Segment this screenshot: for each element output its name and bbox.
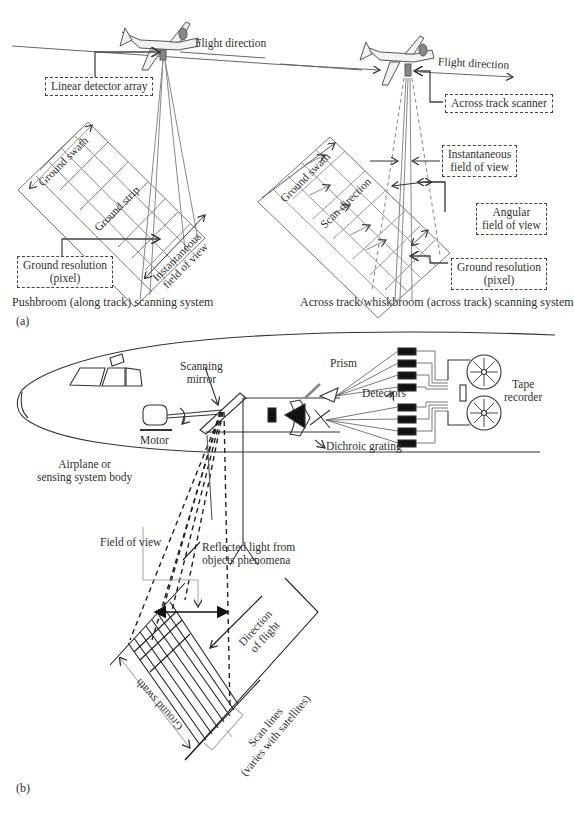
tape-recorder-line2: recorder xyxy=(504,391,542,404)
part-a-label: (a) xyxy=(16,315,29,328)
pushbroom-ground-resolution-line1: Ground resolution xyxy=(23,259,107,272)
whiskbroom-ifov-line2: field of view xyxy=(448,161,511,174)
angular-field-of-view-label: Angular field of view xyxy=(476,203,547,235)
whiskbroom-ifov-label: Instantaneous field of view xyxy=(442,145,517,177)
airplane-body-line2: sensing system body xyxy=(37,471,132,484)
tape-recorder-line1: Tape xyxy=(504,378,542,391)
prism-label: Prism xyxy=(330,357,357,370)
tape-recorder-icon xyxy=(448,355,501,430)
reflected-light-line2: objects phenomena xyxy=(202,554,295,567)
part-b-label: (b) xyxy=(16,782,30,795)
linear-detector-array-label: Linear detector array xyxy=(45,77,153,96)
detectors-label: Detectors xyxy=(362,387,406,400)
whiskbroom-ground-resolution-line1: Ground resolution xyxy=(457,261,541,274)
whiskbroom-ground-resolution-label: Ground resolution (pixel) xyxy=(451,258,547,290)
pushbroom-caption: Pushbroom (along track) scanning system xyxy=(12,296,213,309)
across-track-scanner-label: Across track scanner xyxy=(445,94,553,113)
pushbroom-flight-direction-label: Flight direction xyxy=(195,37,266,50)
dichroic-grating-label: Dichroic grating xyxy=(326,440,402,453)
whiskbroom-ifov-line1: Instantaneous xyxy=(448,148,511,161)
pushbroom-ground-resolution-label: Ground resolution (pixel) xyxy=(17,256,113,288)
motor-label: Motor xyxy=(140,434,169,447)
reflected-light-line1: Reflected light from xyxy=(202,541,295,554)
reflected-light-label: Reflected light from objects phenomena xyxy=(202,541,295,567)
field-of-view-label: Field of view xyxy=(100,536,161,549)
airplane-body-line1: Airplane or xyxy=(37,458,132,471)
pushbroom-ground-resolution-line2: (pixel) xyxy=(23,272,107,285)
angular-line1: Angular xyxy=(482,206,541,219)
airplane-body-diagram xyxy=(17,332,555,565)
tape-recorder-label: Tape recorder xyxy=(504,378,542,404)
whiskbroom-ground-resolution-line2: (pixel) xyxy=(457,274,541,287)
scanning-mirror-line2: mirror xyxy=(180,373,223,386)
scanning-mirror-line1: Scanning xyxy=(180,360,223,373)
airplane-icon xyxy=(120,22,200,70)
angular-line2: field of view xyxy=(482,219,541,232)
airplane-body-label: Airplane or sensing system body xyxy=(37,458,132,484)
airplane-icon xyxy=(360,36,434,85)
scanning-mirror-label: Scanning mirror xyxy=(180,360,223,386)
whiskbroom-caption: Across track/whiskbroom (across track) s… xyxy=(300,296,574,309)
